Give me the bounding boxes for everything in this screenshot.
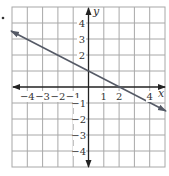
y-tick-label: −3 [71,130,86,141]
y-tick-label: −2 [71,114,86,125]
y-tick-label: 2 [79,50,85,61]
x-tick-label: 4 [147,91,153,102]
graph: y x −4 −3 −2 −1 1 2 4 4 3 2 −1 −2 −3 −4 [0,0,169,176]
y-tick-label: 4 [79,18,85,29]
y-tick-label: −4 [71,146,86,157]
x-tick-label: −2 [51,91,66,102]
x-tick-label: −3 [35,91,50,102]
y-tick-label: 3 [79,34,85,45]
y-tick-label: −1 [71,98,86,109]
bullet-marker [2,17,5,20]
x-tick-label: −4 [20,91,35,102]
x-tick-label: 1 [101,91,107,102]
y-axis-label: y [92,5,100,18]
x-axis-label: x [158,87,165,100]
x-tick-label: 2 [116,91,122,102]
data-line [11,31,89,71]
